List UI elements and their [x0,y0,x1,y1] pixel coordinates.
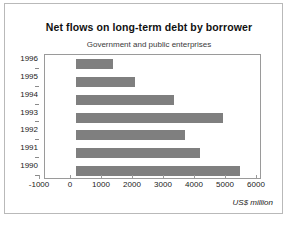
y-axis-tick-label: 1995 [8,72,38,81]
x-axis-tick-mark [70,175,71,179]
bar-1992 [76,130,185,140]
x-axis-tick-mark [101,175,102,179]
y-axis-tick-label: 1990 [8,161,38,170]
y-axis-tick-mark [35,139,39,140]
x-axis-tick-mark [256,175,257,179]
y-axis-tick-mark [35,68,39,69]
y-axis-tick-label: 1991 [8,143,38,152]
y-axis-tick-label: 1992 [8,125,38,134]
y-axis-tick-mark [35,157,39,158]
bar-1994 [76,95,174,105]
y-axis-tick-mark [35,121,39,122]
x-axis-tick-label: 6000 [236,180,276,189]
bar-1991 [76,148,200,158]
bar-1996 [76,59,113,69]
x-axis-tick-mark [132,175,133,179]
bar-1995 [76,77,135,87]
x-axis-tick-mark [39,175,40,179]
y-axis-tick-label: 1993 [8,108,38,117]
x-axis-tick-mark [163,175,164,179]
x-axis-tick-mark [194,175,195,179]
plot-area [44,54,261,179]
bar-1993 [76,113,223,123]
x-axis-units-label: US$ million [5,198,273,207]
y-axis-tick-mark [35,86,39,87]
y-axis-tick-label: 1994 [8,90,38,99]
x-axis-tick-mark [225,175,226,179]
y-axis-tick-label: 1996 [8,54,38,63]
chart-subtitle: Government and public enterprises [5,40,288,49]
chart-title: Net flows on long-term debt by borrower [5,21,288,33]
y-axis-tick-mark [35,104,39,105]
